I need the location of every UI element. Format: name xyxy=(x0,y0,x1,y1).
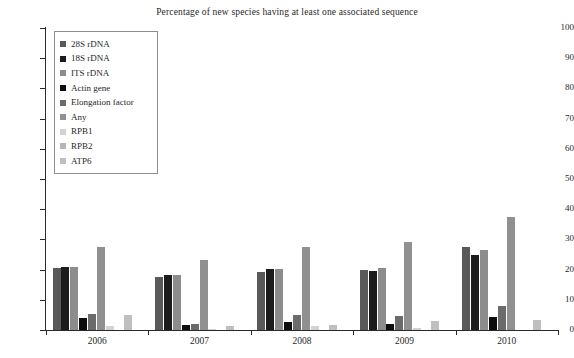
bar-2006-actin-gene xyxy=(79,318,87,330)
legend-swatch-icon xyxy=(60,100,66,106)
legend-item-28s-rdna[interactable]: 28S rDNA xyxy=(60,37,151,52)
bar-2010-atp6 xyxy=(533,320,541,330)
legend-item-rpb2[interactable]: RPB2 xyxy=(60,139,151,154)
legend-item-atp6[interactable]: ATP6 xyxy=(60,154,151,169)
y-axis-tick xyxy=(40,300,45,301)
bar-2006-its-rdna xyxy=(70,267,78,330)
legend-item-actin-gene[interactable]: Actin gene xyxy=(60,81,151,96)
legend-item-label: 28S rDNA xyxy=(71,40,110,49)
bar-2008-elongation-factor xyxy=(293,315,301,330)
bar-group-2009 xyxy=(360,28,439,330)
bar-group-2007 xyxy=(155,28,234,330)
bar-2006-18s-rdna xyxy=(61,267,69,330)
legend-swatch-icon xyxy=(60,158,66,164)
bar-2007-rpb1 xyxy=(208,329,216,331)
x-axis-label-2006: 2006 xyxy=(88,337,107,347)
bar-2006-rpb1 xyxy=(106,326,114,330)
y-axis-tick xyxy=(40,149,45,150)
bar-2008-18s-rdna xyxy=(266,269,274,330)
y-axis-tick xyxy=(40,270,45,271)
bar-2008-rpb1 xyxy=(311,326,319,330)
bar-2007-actin-gene xyxy=(182,325,190,330)
legend-item-label: RPB2 xyxy=(71,142,93,151)
bar-2009-elongation-factor xyxy=(395,316,403,330)
y-axis-tick xyxy=(40,209,45,210)
x-axis-tick xyxy=(353,330,354,335)
bar-2007-atp6 xyxy=(226,326,234,330)
x-axis-label-2008: 2008 xyxy=(293,337,312,347)
bar-2009-any xyxy=(404,242,412,330)
bar-2009-its-rdna xyxy=(378,268,386,330)
legend-item-its-rdna[interactable]: ITS rDNA xyxy=(60,66,151,81)
legend-item-label: Any xyxy=(71,113,87,122)
bar-2009-18s-rdna xyxy=(369,271,377,330)
x-axis-tick xyxy=(558,330,559,335)
y-axis-tick xyxy=(40,119,45,120)
bar-2008-any xyxy=(302,247,310,330)
bar-2010-18s-rdna xyxy=(471,255,479,331)
legend-item-18s-rdna[interactable]: 18S rDNA xyxy=(60,52,151,67)
bar-2006-atp6 xyxy=(124,315,132,330)
y-axis-tick xyxy=(40,58,45,59)
legend-item-label: RPB1 xyxy=(71,127,93,136)
bar-group-2008 xyxy=(257,28,336,330)
legend-swatch-icon xyxy=(60,85,66,91)
bar-2010-any xyxy=(507,217,515,330)
bar-2007-any xyxy=(200,260,208,330)
bar-2008-actin-gene xyxy=(284,322,292,330)
legend-item-rpb1[interactable]: RPB1 xyxy=(60,125,151,140)
x-axis-label-2007: 2007 xyxy=(190,337,209,347)
x-axis-tick xyxy=(148,330,149,335)
bar-2007-elongation-factor xyxy=(191,324,199,330)
legend-swatch-icon xyxy=(60,56,66,62)
bar-2009-rpb1 xyxy=(413,328,421,330)
bar-2010-28s-rdna xyxy=(462,247,470,330)
legend-swatch-icon xyxy=(60,41,66,47)
legend-item-label: Elongation factor xyxy=(71,98,134,107)
legend-item-any[interactable]: Any xyxy=(60,110,151,125)
bar-2010-elongation-factor xyxy=(498,306,506,330)
chart-legend: 28S rDNA18S rDNAITS rDNAActin geneElonga… xyxy=(54,31,158,174)
bar-2008-28s-rdna xyxy=(257,272,265,330)
legend-swatch-icon xyxy=(60,114,66,120)
x-axis-tick xyxy=(46,330,47,335)
legend-swatch-icon xyxy=(60,129,66,135)
bar-2008-atp6 xyxy=(329,325,337,330)
x-axis-tick xyxy=(456,330,457,335)
legend-item-label: Actin gene xyxy=(71,84,110,93)
bar-2009-28s-rdna xyxy=(360,270,368,330)
y-axis-tick xyxy=(40,88,45,89)
legend-swatch-icon xyxy=(60,143,66,149)
bar-2006-28s-rdna xyxy=(53,268,61,330)
bar-2010-its-rdna xyxy=(480,250,488,330)
bar-2008-its-rdna xyxy=(275,269,283,330)
y-axis-tick xyxy=(40,28,45,29)
chart-figure: Percentage of new species having at leas… xyxy=(0,0,574,358)
x-axis-label-2010: 2010 xyxy=(497,337,516,347)
bar-2007-its-rdna xyxy=(173,275,181,330)
legend-item-label: 18S rDNA xyxy=(71,54,110,63)
bar-2007-18s-rdna xyxy=(164,275,172,330)
bar-2006-any xyxy=(97,247,105,330)
bar-group-2010 xyxy=(462,28,541,330)
chart-title: Percentage of new species having at leas… xyxy=(0,7,574,17)
y-axis-tick xyxy=(40,330,45,331)
bar-2009-actin-gene xyxy=(386,324,394,330)
x-axis-line xyxy=(45,330,559,331)
legend-item-label: ATP6 xyxy=(71,157,92,166)
legend-swatch-icon xyxy=(60,70,66,76)
y-axis-tick xyxy=(40,239,45,240)
bar-2010-actin-gene xyxy=(489,317,497,330)
legend-item-elongation-factor[interactable]: Elongation factor xyxy=(60,95,151,110)
x-axis-label-2009: 2009 xyxy=(395,337,414,347)
legend-item-label: ITS rDNA xyxy=(71,69,109,78)
bar-2009-atp6 xyxy=(431,321,439,330)
bar-2006-elongation-factor xyxy=(88,314,96,330)
y-axis-tick xyxy=(40,179,45,180)
x-axis-tick xyxy=(251,330,252,335)
bar-2007-28s-rdna xyxy=(155,277,163,330)
